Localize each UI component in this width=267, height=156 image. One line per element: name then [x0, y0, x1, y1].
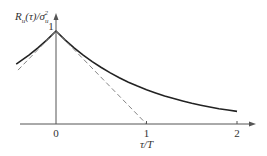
- y-label-den-sub: u: [45, 17, 49, 25]
- y-tick-label: 1: [48, 20, 54, 32]
- series-layer: [16, 31, 237, 124]
- dashed-tangent-line-1: [56, 31, 147, 124]
- ticks: 0121: [48, 20, 240, 139]
- y-label-arg: (τ)/σ: [25, 10, 45, 23]
- y-label-den-sup: 2: [44, 9, 48, 17]
- x-tick-label: 0: [53, 127, 59, 139]
- y-axis-arrow: [54, 13, 59, 20]
- chart: 0121 τ/T Ru(τ)/σu2: [0, 0, 267, 156]
- y-axis-label: Ru(τ)/σu2: [14, 9, 49, 25]
- x-axis-label: τ/T: [140, 138, 154, 150]
- x-axis-arrow: [249, 122, 256, 127]
- x-tick-label: 2: [234, 127, 240, 139]
- autocorrelation-curve: [16, 31, 237, 111]
